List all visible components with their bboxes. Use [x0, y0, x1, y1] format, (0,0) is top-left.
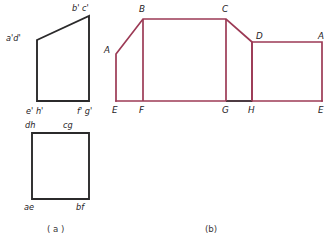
vertex-label-D: D [256, 31, 263, 41]
vertex-label-cg: cg [63, 120, 73, 130]
top-view-rectangle [32, 133, 89, 199]
vertex-label-a1d1: a'd' [6, 33, 21, 43]
vertex-label-ae: ae [24, 202, 34, 212]
development-outline-left [116, 19, 252, 101]
vertex-label-A-right: A [317, 31, 324, 41]
panel-a-orthographic-views: a'd' b' c' f' g' e' h' dh cg bf ae [6, 3, 92, 212]
vertex-label-e1h1: e' h' [26, 106, 43, 116]
development-outline-right [252, 42, 322, 101]
technical-drawing-canvas: a'd' b' c' f' g' e' h' dh cg bf ae [0, 0, 335, 245]
figure-sheet: a'd' b' c' f' g' e' h' dh cg bf ae [0, 0, 335, 245]
vertex-label-E-left: E [112, 105, 118, 115]
vertex-label-f1g1: f' g' [77, 106, 92, 116]
vertex-label-H: H [248, 105, 255, 115]
vertex-label-F: F [139, 105, 145, 115]
vertex-label-b1c1: b' c' [72, 3, 89, 13]
front-view-trapezoid [37, 16, 89, 101]
panel-b-surface-development: A B C D A E F G H E [103, 4, 324, 115]
vertex-label-C: C [222, 4, 229, 14]
vertex-label-G: G [222, 105, 229, 115]
vertex-label-A-left: A [103, 45, 110, 55]
vertex-label-dh: dh [25, 120, 35, 130]
caption-a: ( a ) [47, 224, 64, 234]
vertex-label-bf: bf [76, 202, 85, 212]
caption-b: (b) [205, 224, 217, 234]
vertex-label-B: B [139, 4, 145, 14]
vertex-label-E-right: E [318, 105, 324, 115]
